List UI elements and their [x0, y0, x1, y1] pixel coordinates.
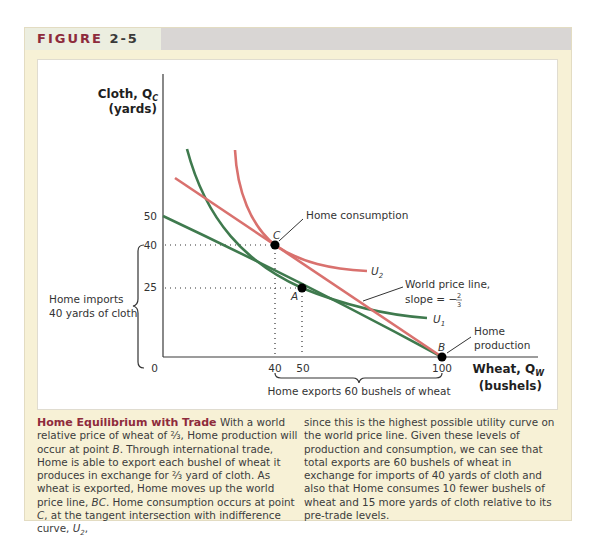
point-a-marker: [298, 284, 307, 293]
imports-label-2: 40 yards of cloth: [49, 307, 137, 319]
slope-denominator: 3: [457, 301, 461, 309]
figure-header: FIGURE 2-5: [25, 28, 571, 50]
leader-world-price: [363, 287, 403, 301]
y-axis-label: Cloth, QC: [98, 87, 158, 103]
world-price-line: [175, 178, 442, 357]
x-axis-label-units: (bushels): [479, 379, 542, 393]
leader-home-production: [447, 337, 471, 353]
x-tick-100: 100: [432, 362, 452, 374]
x-tick-40: 40: [268, 362, 281, 374]
chart-area: Cloth, QC (yards) 50 40 25 0 40 50 100 W…: [37, 59, 558, 410]
caption-fraction: ⅔: [172, 469, 182, 481]
caption-text: ,: [85, 522, 88, 534]
caption-title: Home Equilibrium with Trade: [37, 416, 217, 429]
imports-label-1: Home imports: [49, 293, 123, 305]
caption-point-b: B: [113, 443, 120, 455]
figure-label: FIGURE 2-5: [37, 31, 139, 46]
caption-right-column: since this is the highest possible utili…: [304, 416, 562, 522]
world-price-label-1: World price line,: [405, 278, 490, 290]
point-c-label: C: [273, 229, 281, 241]
exports-brace: [275, 373, 442, 383]
guide-lines: [165, 245, 302, 355]
caption-fraction: ⅔: [171, 429, 181, 441]
home-production-label-2: production: [474, 339, 530, 351]
y-tick-0: 0: [151, 362, 158, 374]
indifference-curve-u1: [187, 149, 427, 318]
chart-svg: Cloth, QC (yards) 50 40 25 0 40 50 100 W…: [38, 60, 557, 409]
figure-frame: FIGURE 2-5: [24, 27, 572, 521]
figure-label-number: 2-5: [109, 31, 139, 46]
x-axis-label: Wheat, QW: [472, 362, 545, 378]
caption-line-bc: BC: [92, 496, 106, 508]
exports-label: Home exports 60 bushels of wheat: [267, 385, 450, 397]
leader-home-consumption: [279, 219, 303, 241]
y-axis-label-units: (yards): [108, 102, 157, 116]
u2-label: U2: [371, 265, 384, 280]
x-tick-50: 50: [296, 362, 309, 374]
u1-label: U1: [433, 313, 445, 328]
slope-numerator: 2: [457, 292, 461, 300]
y-tick-25: 25: [144, 281, 157, 293]
point-a-label: A: [290, 290, 298, 302]
caption-left-column: Home Equilibrium with Trade With a world…: [37, 416, 299, 541]
point-c-marker: [271, 241, 280, 250]
point-b-marker: [438, 353, 447, 362]
home-production-label-1: Home: [474, 325, 505, 337]
point-b-label: B: [438, 341, 445, 353]
y-tick-40: 40: [144, 239, 157, 251]
caption-text: . Home consumption occurs at point: [106, 496, 295, 508]
y-tick-50: 50: [144, 210, 157, 222]
world-price-label-2: slope = −: [405, 293, 457, 305]
figure-label-word: FIGURE: [37, 31, 103, 46]
home-consumption-label: Home consumption: [306, 209, 408, 221]
